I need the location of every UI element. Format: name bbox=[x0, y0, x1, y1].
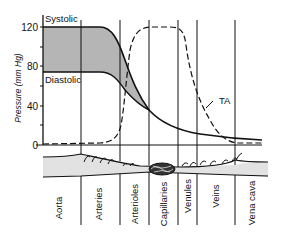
diastolic-label: Diastolic bbox=[45, 74, 81, 85]
y-tick-120: 120 bbox=[21, 22, 38, 33]
segment-label-venules: Venules bbox=[182, 179, 193, 213]
y-axis-label: Pressure (mm Hg) bbox=[13, 53, 23, 123]
y-tick-0: 0 bbox=[32, 140, 38, 151]
segment-label-arterioles: Arterioles bbox=[129, 184, 140, 224]
systolic-label: Systolic bbox=[45, 13, 78, 24]
circulation-pressure-diagram: 0 40 80 120 Pressure (mm Hg) Systolic Di… bbox=[0, 0, 292, 240]
segment-label-capillaries: Capillaries bbox=[158, 182, 169, 227]
segment-label-arteries: Arteries bbox=[93, 187, 104, 220]
segment-label-veins: Veins bbox=[210, 184, 221, 207]
ta-pointer bbox=[206, 101, 213, 108]
y-tick-40: 40 bbox=[27, 101, 39, 112]
segment-label-aorta: Aorta bbox=[53, 196, 64, 219]
segment-label-vena-cava: Vena cava bbox=[246, 180, 257, 225]
venous-valves bbox=[182, 153, 242, 166]
y-tick-80: 80 bbox=[27, 61, 39, 72]
ta-label: TA bbox=[219, 95, 231, 106]
